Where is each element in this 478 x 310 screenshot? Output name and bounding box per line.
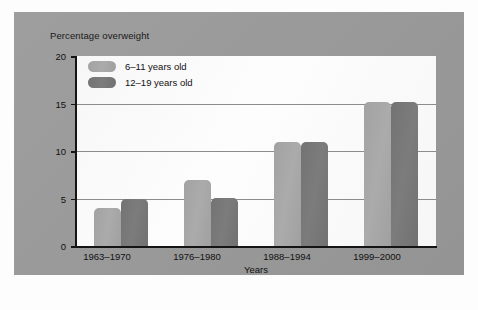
y-axis-line xyxy=(75,56,77,247)
legend-label: 12–19 years old xyxy=(125,77,193,88)
y-tick-label: 10 xyxy=(44,146,66,157)
bar xyxy=(274,142,301,247)
bar xyxy=(184,180,211,247)
bar xyxy=(211,198,238,246)
y-tick-mark xyxy=(71,104,75,106)
bar xyxy=(391,102,418,246)
x-tick-label: 1963–1970 xyxy=(83,251,131,262)
legend-item: 12–19 years old xyxy=(88,77,193,88)
bar xyxy=(94,208,121,246)
chart-figure: Percentage overweight 6–11 years old 12–… xyxy=(0,0,478,310)
x-axis-line xyxy=(75,246,437,248)
y-tick-mark xyxy=(71,151,75,153)
x-axis-title: Years xyxy=(244,264,268,275)
legend-item: 6–11 years old xyxy=(88,61,193,72)
plot-area: 6–11 years old 12–19 years old xyxy=(76,56,436,246)
x-tick-label: 1976–1980 xyxy=(173,251,221,262)
y-tick-label: 20 xyxy=(44,51,66,62)
bar xyxy=(301,142,328,247)
x-tick-label: 1988–1994 xyxy=(263,251,311,262)
bar xyxy=(121,199,148,247)
y-tick-mark xyxy=(71,56,75,58)
y-tick-mark xyxy=(71,199,75,201)
legend-swatch-icon xyxy=(88,61,116,72)
legend-label: 6–11 years old xyxy=(125,61,187,72)
y-tick-label: 15 xyxy=(44,98,66,109)
bar xyxy=(364,102,391,246)
y-tick-mark xyxy=(71,246,75,248)
x-tick-label: 1999–2000 xyxy=(353,251,401,262)
y-tick-label: 0 xyxy=(44,241,66,252)
chart-legend: 6–11 years old 12–19 years old xyxy=(88,61,193,88)
y-tick-label: 5 xyxy=(44,193,66,204)
legend-swatch-icon xyxy=(88,77,116,88)
chart-panel: Percentage overweight 6–11 years old 12–… xyxy=(14,12,464,275)
y-axis-title: Percentage overweight xyxy=(50,30,149,41)
